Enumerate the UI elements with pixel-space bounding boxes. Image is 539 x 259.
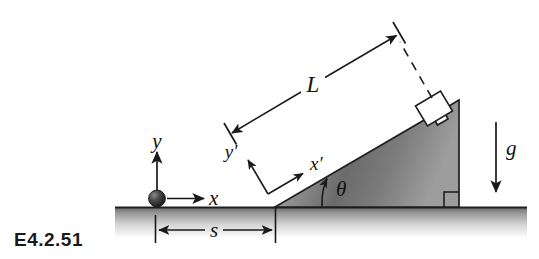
axis-x-prime-arrow: [268, 174, 303, 195]
dimension-L-arrow-left: [232, 92, 301, 133]
dimension-extension-dashed: [400, 42, 432, 98]
dashed-extension-line: [400, 42, 432, 98]
primed-coordinate-frame: x′ y′: [223, 141, 324, 194]
dimension-L-arrow-right: [325, 36, 397, 78]
axis-y-label: y: [150, 129, 162, 153]
ground-surface: [115, 208, 527, 239]
axis-x-prime-label: x′: [309, 153, 323, 174]
gravity-vector: g: [496, 122, 517, 192]
ball-and-inertial-frame: y x: [149, 129, 219, 210]
dimension-L-tick-upper: [393, 22, 406, 44]
ground-fill: [115, 208, 527, 238]
dimension-L: L: [224, 22, 406, 145]
ball: [149, 190, 166, 207]
axis-y-prime-arrow: [248, 160, 268, 194]
axis-x-label: x: [208, 186, 219, 210]
figure-container: L x′ y′ θ y x: [0, 0, 539, 259]
dimension-s-label: s: [210, 218, 218, 242]
figure-id-label: E4.2.51: [14, 229, 83, 250]
physics-diagram: L x′ y′ θ y x: [0, 0, 539, 259]
dimension-L-label: L: [306, 72, 320, 97]
gravity-label: g: [506, 136, 517, 160]
angle-theta-label: θ: [336, 177, 346, 201]
axis-y-prime-label: y′: [223, 141, 238, 162]
